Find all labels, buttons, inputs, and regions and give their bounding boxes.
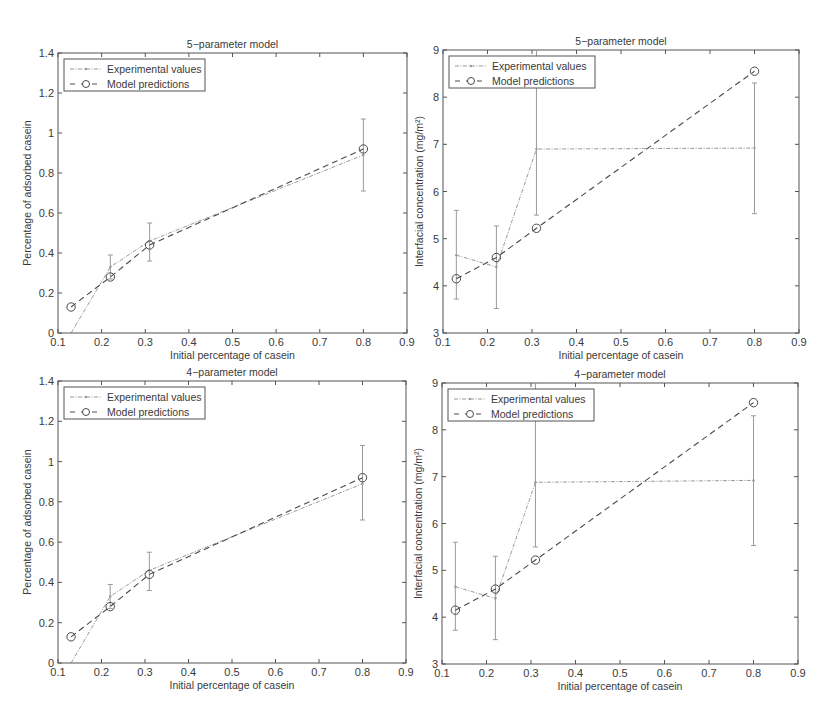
legend-model-label: Model predictions [107,78,189,90]
x-tick-label: 0.5 [612,667,627,679]
x-tick-label: 0.6 [658,336,673,348]
x-axis-label: Initial percentage of casein [170,679,295,691]
legend-circle-icon [468,78,475,85]
y-tick-label: 9 [432,377,438,389]
experimental-point [361,483,363,485]
x-tick-label: 0.7 [701,667,716,679]
experimental-point [534,481,536,483]
legend-point-icon [85,396,87,398]
y-tick-label: 0 [48,657,54,669]
legend-model-label: Model predictions [492,75,574,87]
y-tick-label: 7 [432,471,438,483]
legend-experimental-label: Experimental values [491,393,586,405]
model-circle-marker [749,398,757,406]
x-tick-label: 0.9 [399,336,414,348]
legend: Experimental valuesModel predictions [448,389,594,421]
x-tick-label: 0.5 [225,336,240,348]
experimental-point [495,266,497,268]
x-tick-label: 0.2 [94,336,109,348]
legend-model-label: Model predictions [107,406,189,418]
x-tick-label: 0.3 [137,666,152,678]
experimental-line [456,148,754,267]
x-axis-label: Initial percentage of casein [559,349,684,361]
y-tick-label: 4 [433,280,439,292]
y-tick-label: 0.8 [39,167,54,179]
legend-point-icon [470,65,472,67]
y-tick-label: 8 [433,91,439,103]
x-tick-label: 0.6 [268,666,283,678]
x-tick-label: 0.4 [181,666,196,678]
x-axis-label: Initial percentage of casein [170,349,295,361]
x-tick-label: 0.8 [356,336,371,348]
legend-model-label: Model predictions [491,408,573,420]
x-tick-label: 0.9 [398,666,413,678]
y-tick-label: 0.2 [39,287,54,299]
x-tick-label: 0.6 [268,336,283,348]
y-tick-label: 1.4 [39,375,54,387]
figure-canvas: 0.10.20.30.40.50.60.70.80.900.20.40.60.8… [0,0,835,719]
y-tick-label: 9 [433,44,439,56]
x-tick-label: 0.3 [524,336,539,348]
x-tick-label: 0.2 [479,667,494,679]
y-tick-label: 6 [432,518,438,530]
legend: Experimental valuesModel predictions [449,56,595,88]
legend-experimental-label: Experimental values [107,63,202,75]
x-tick-label: 0.9 [791,336,806,348]
y-tick-label: 0.2 [39,617,54,629]
experimental-point [109,266,111,268]
x-tick-label: 0.7 [702,336,717,348]
experimental-point [70,332,72,334]
y-tick-label: 0.6 [39,536,54,548]
experimental-point [753,147,755,149]
y-tick-label: 0.8 [39,496,54,508]
y-tick-label: 8 [432,424,438,436]
x-tick-label: 0.3 [523,667,538,679]
legend-experimental-label: Experimental values [492,60,587,72]
chart-panel-top-right: 0.10.20.30.40.50.60.70.80.934567895−para… [413,35,807,361]
x-tick-label: 0.4 [569,336,584,348]
y-tick-label: 3 [432,658,438,670]
y-axis-label: Interfacial concentration (mg/m²) [413,116,425,267]
x-tick-label: 0.9 [790,667,805,679]
chart-title: 4−parameter model [574,368,665,380]
axes-box [58,53,407,333]
experimental-point [535,148,537,150]
y-axis-label: Percentage of adsorbed casein [21,449,33,595]
model-line [456,71,754,279]
x-tick-label: 0.2 [94,666,109,678]
model-line [455,403,753,610]
chart-title: 5−parameter model [187,38,278,50]
chart-title: 4−parameter model [186,366,277,378]
experimental-line [71,155,363,333]
x-tick-label: 0.2 [480,336,495,348]
chart-panel-bottom-right: 0.10.20.30.40.50.60.70.80.934567894−para… [412,368,806,692]
experimental-point [362,154,364,156]
experimental-line [71,484,362,663]
y-tick-label: 5 [433,233,439,245]
plot-area [452,50,759,308]
y-tick-label: 3 [433,327,439,339]
x-tick-label: 0.8 [747,336,762,348]
x-tick-label: 0.8 [746,667,761,679]
x-tick-label: 0.8 [355,666,370,678]
x-tick-label: 0.3 [138,336,153,348]
y-tick-label: 0 [48,327,54,339]
x-axis-label: Initial percentage of casein [558,680,683,692]
y-tick-label: 4 [432,611,438,623]
y-axis-label: Interfacial concentration (mg/m²) [412,448,424,599]
experimental-point [454,586,456,588]
x-tick-label: 0.4 [568,667,583,679]
legend-circle-icon [83,409,90,416]
experimental-line [455,480,753,598]
y-tick-label: 6 [433,186,439,198]
y-tick-label: 7 [433,138,439,150]
y-tick-label: 0.4 [39,247,54,259]
experimental-point [455,254,457,256]
x-tick-label: 0.5 [613,336,628,348]
legend: Experimental valuesModel predictions [64,387,205,419]
legend-experimental-label: Experimental values [107,391,202,403]
legend-point-icon [85,68,87,70]
axes-box [58,381,406,663]
y-tick-label: 5 [432,564,438,576]
legend-circle-icon [467,411,474,418]
